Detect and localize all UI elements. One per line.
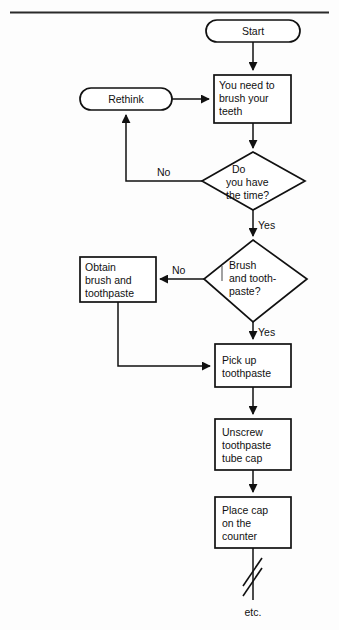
pickup-line-2: toothpaste [222,367,271,379]
pickup-line-1: Pick up [222,354,257,366]
supplies-line-1: Brush [229,259,257,271]
place-cap-line-2: on the [222,517,251,529]
node-place-cap-on-the-counter: Place cap on the counter [215,497,291,548]
edge-label-supplies-no: No [172,264,186,276]
edge-label-have-time-no: No [157,166,171,178]
have-time-line-3: the time? [226,189,269,201]
etc-label: etc. [245,606,262,618]
unscrew-line-1: Unscrew [222,426,263,438]
unscrew-line-2: toothpaste [222,439,271,451]
edge-label-supplies-yes: Yes [258,326,275,338]
flowchart-page: Start Rethink You need to brush your tee… [0,0,339,630]
node-start: Start [206,20,300,42]
have-time-line-1: Do [232,163,246,175]
obtain-line-1: Obtain [85,261,116,273]
flowchart-canvas: Start Rethink You need to brush your tee… [0,0,339,630]
node-brush-and-toothpaste: Brush and tooth- paste? [204,240,307,322]
need-brush-line-1: You need to [219,79,275,91]
node-pick-up-toothpaste: Pick up toothpaste [215,344,291,387]
connector-obtain-to-pickup [118,302,210,366]
obtain-line-2: brush and [85,274,132,286]
node-do-you-have-the-time: Do you have the time? [202,152,305,210]
edge-label-have-time-yes: Yes [258,219,275,231]
place-cap-line-3: counter [222,530,258,542]
place-cap-line-1: Place cap [222,504,268,516]
supplies-line-3: paste? [229,285,261,297]
node-unscrew-toothpaste-tube-cap: Unscrew toothpaste tube cap [215,419,291,470]
unscrew-line-3: tube cap [222,452,262,464]
node-obtain-brush-and-toothpaste: Obtain brush and toothpaste [80,257,156,302]
node-rethink-label: Rethink [108,93,144,105]
need-brush-line-3: teeth [219,105,243,117]
need-brush-line-2: brush your [219,92,269,104]
supplies-line-2: and tooth- [229,272,277,284]
node-you-need-to-brush-your-teeth: You need to brush your teeth [214,75,291,123]
have-time-line-2: you have [226,176,269,188]
obtain-line-3: toothpaste [85,287,134,299]
node-rethink: Rethink [80,88,172,110]
node-start-label: Start [242,25,264,37]
